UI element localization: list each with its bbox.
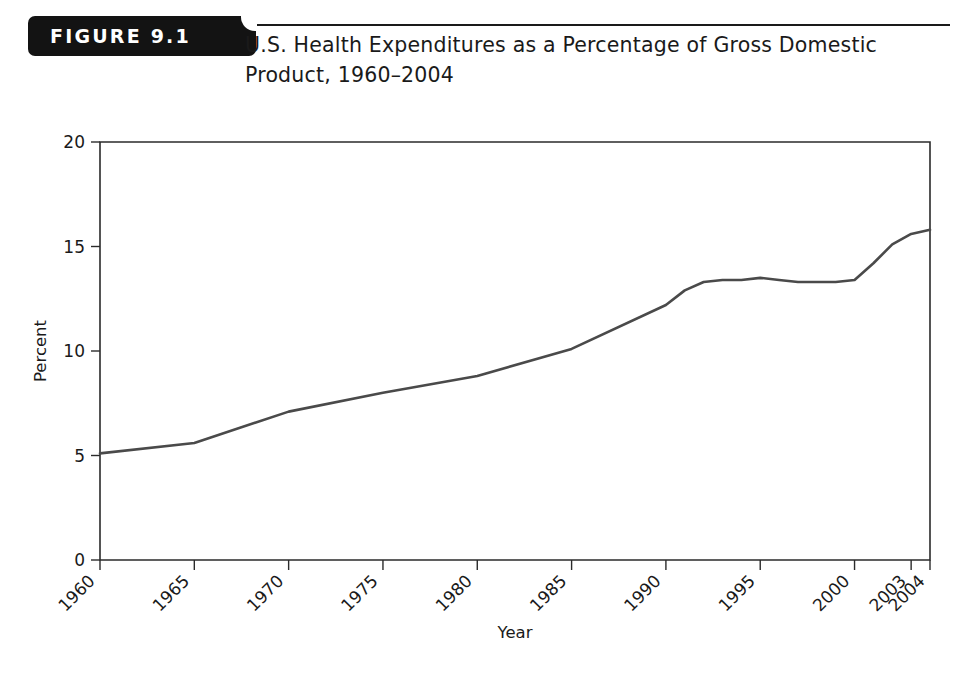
x-tick-label: 1995: [714, 571, 759, 616]
line-chart: 05101520 1960196519701975198019851990199…: [0, 110, 960, 684]
plot-frame: [100, 142, 930, 560]
x-tick-label: 1965: [148, 571, 193, 616]
chart-container: 05101520 1960196519701975198019851990199…: [0, 110, 960, 684]
y-tick-label: 20: [63, 132, 85, 152]
y-axis-tick-labels: 05101520: [63, 132, 85, 570]
y-axis-ticks: [91, 142, 100, 560]
figure-title: U.S. Health Expenditures as a Percentage…: [245, 30, 885, 90]
x-tick-label: 2000: [809, 571, 854, 616]
x-tick-label: 1975: [337, 571, 382, 616]
data-series-line: [100, 230, 930, 454]
x-tick-label: 1980: [431, 571, 476, 616]
y-tick-label: 15: [63, 237, 85, 257]
header-rule: [188, 24, 950, 26]
x-axis-tick-labels: 1960196519701975198019851990199520002003…: [54, 571, 929, 616]
x-axis-title: Year: [497, 623, 533, 642]
x-tick-label: 1970: [243, 571, 288, 616]
x-tick-label: 1985: [526, 571, 571, 616]
x-tick-label: 1990: [620, 571, 665, 616]
plot-border: [100, 142, 930, 560]
figure-number-label: FIGURE 9.1: [28, 25, 191, 47]
figure-number-tab: FIGURE 9.1: [28, 16, 256, 56]
x-axis-ticks: [100, 560, 930, 570]
y-tick-label: 0: [74, 550, 85, 570]
y-axis-title: Percent: [31, 319, 50, 382]
figure-header: FIGURE 9.1 U.S. Health Expenditures as a…: [0, 0, 960, 110]
y-tick-label: 5: [74, 446, 85, 466]
y-tick-label: 10: [63, 341, 85, 361]
x-tick-label: 1960: [54, 571, 99, 616]
